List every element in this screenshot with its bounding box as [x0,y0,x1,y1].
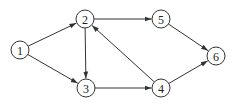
node-label: 5 [158,13,164,27]
node-2: 2 [76,10,94,28]
edge-1-to-3 [28,54,78,83]
edges-group [28,19,208,88]
directed-graph: 123456 [0,0,236,104]
node-label: 1 [17,44,23,58]
node-label: 2 [82,13,88,27]
node-4: 4 [152,79,170,97]
node-label: 4 [158,82,164,96]
node-label: 6 [213,50,219,64]
node-5: 5 [152,10,170,28]
edge-2-to-3 [85,28,86,79]
edge-4-to-2 [92,25,154,82]
edge-1-to-2 [28,23,76,46]
nodes-group: 123456 [11,10,225,97]
edge-5-to-6 [168,24,208,51]
node-label: 3 [83,82,89,96]
node-6: 6 [207,47,225,65]
node-3: 3 [77,79,95,97]
node-1: 1 [11,41,29,59]
edge-4-to-6 [169,61,208,84]
